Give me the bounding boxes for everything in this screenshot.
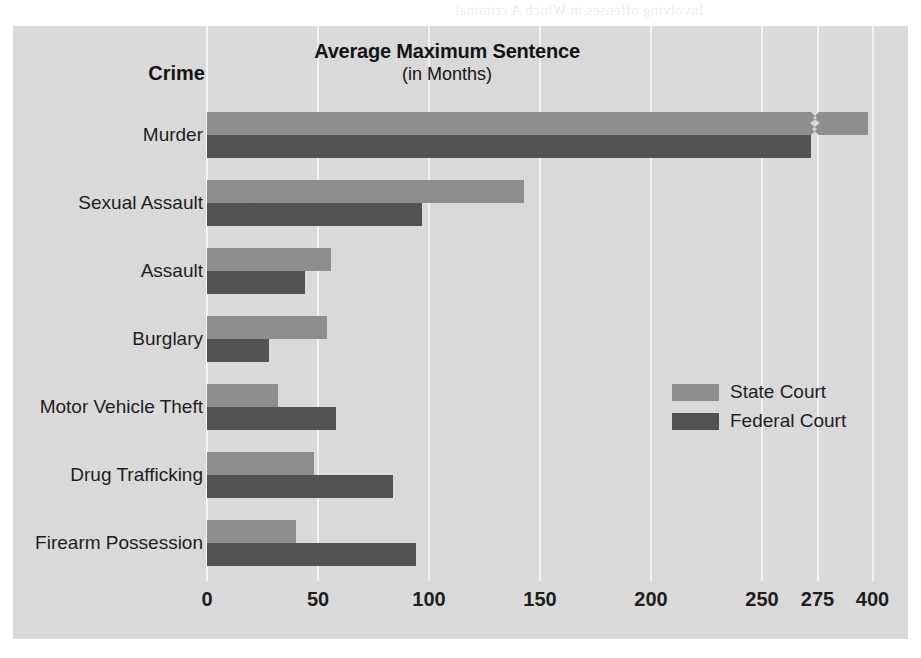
bar-burglary-federal-court <box>207 339 269 362</box>
gridline-400 <box>872 26 874 581</box>
legend-item-state-court[interactable]: State Court <box>672 381 846 403</box>
x-tick-label-200: 200 <box>634 588 667 611</box>
gridline-250 <box>761 26 763 581</box>
chart-title: Average Maximum Sentence <box>207 40 687 63</box>
bar-murder-state-court <box>207 112 868 135</box>
x-tick-label-400: 400 <box>856 588 889 611</box>
bar-drug-trafficking-state-court <box>207 452 314 475</box>
gridline-200 <box>650 26 652 581</box>
bar-firearm-possession-state-court <box>207 520 296 543</box>
gridline-150 <box>539 26 541 581</box>
gridline-100 <box>428 26 430 581</box>
chart-panel: 050100150200250275400 Average Maximum Se… <box>13 26 908 639</box>
legend-label: State Court <box>730 381 826 403</box>
category-label-sexual-assault: Sexual Assault <box>78 192 203 214</box>
bar-motor-vehicle-theft-state-court <box>207 384 278 407</box>
x-tick-label-50: 50 <box>307 588 329 611</box>
x-tick-label-150: 150 <box>523 588 556 611</box>
x-tick-label-100: 100 <box>412 588 445 611</box>
bar-assault-state-court <box>207 248 331 271</box>
category-label-assault: Assault <box>141 260 203 282</box>
bar-drug-trafficking-federal-court <box>207 475 393 498</box>
category-label-motor-vehicle-theft: Motor Vehicle Theft <box>40 396 203 418</box>
bar-firearm-possession-federal-court <box>207 543 416 566</box>
category-label-burglary: Burglary <box>132 328 203 350</box>
x-tick-label-275: 275 <box>801 588 834 611</box>
bar-sexual-assault-state-court <box>207 180 524 203</box>
legend-label: Federal Court <box>730 410 846 432</box>
category-axis-title: Crime <box>148 62 205 85</box>
bar-motor-vehicle-theft-federal-court <box>207 407 336 430</box>
legend-swatch-icon <box>672 384 719 401</box>
bar-assault-federal-court <box>207 271 305 294</box>
x-tick-label-0: 0 <box>201 588 212 611</box>
legend-item-federal-court[interactable]: Federal Court <box>672 410 846 432</box>
bar-sexual-assault-federal-court <box>207 203 422 226</box>
legend-swatch-icon <box>672 413 719 430</box>
category-label-firearm-possession: Firearm Possession <box>35 532 203 554</box>
chart-subtitle: (in Months) <box>207 64 687 85</box>
bar-burglary-state-court <box>207 316 327 339</box>
bar-murder-federal-court <box>207 135 811 158</box>
category-label-drug-trafficking: Drug Trafficking <box>70 464 203 486</box>
legend: State CourtFederal Court <box>672 381 846 439</box>
category-label-murder: Murder <box>143 124 203 146</box>
gridline-275 <box>817 26 819 581</box>
page-bleedthrough-top: Involving offenses in Which A criminal <box>455 2 704 19</box>
x-tick-label-250: 250 <box>745 588 778 611</box>
